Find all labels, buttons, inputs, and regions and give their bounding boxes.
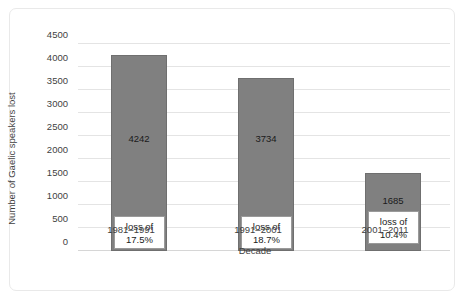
x-axis-title: Decade bbox=[69, 245, 441, 256]
x-tick-1991-2001: 1991–2001 bbox=[230, 224, 286, 235]
y-tick-4000: 4000 bbox=[47, 53, 68, 63]
y-tick-1500: 1500 bbox=[47, 168, 68, 178]
y-axis-tick-labels: 4500 4000 3500 3000 2500 2000 1500 1000 … bbox=[10, 9, 74, 299]
y-tick-1000: 1000 bbox=[47, 191, 68, 201]
x-tick-2001-2011: 2001–2011 bbox=[357, 224, 413, 235]
y-tick-2000: 2000 bbox=[47, 145, 68, 155]
y-tick-500: 500 bbox=[52, 214, 68, 224]
y-tick-4500: 4500 bbox=[47, 30, 68, 40]
y-tick-0: 0 bbox=[63, 237, 68, 247]
gridline-4500 bbox=[78, 43, 450, 44]
bar-value-2001-2011: 1685 bbox=[365, 195, 421, 206]
plot-area: 4242 loss of 17.5% 3734 loss of 18.7% 16… bbox=[78, 43, 450, 251]
y-tick-3000: 3000 bbox=[47, 99, 68, 109]
chart-frame: Number of Gaelic speakers lost 4500 4000… bbox=[9, 8, 455, 291]
bar-value-1991-2001: 3734 bbox=[238, 133, 294, 144]
y-tick-2500: 2500 bbox=[47, 122, 68, 132]
bar-value-1981-1991: 4242 bbox=[111, 133, 167, 144]
x-tick-1981-1991: 1981–1991 bbox=[103, 224, 159, 235]
y-tick-3500: 3500 bbox=[47, 76, 68, 86]
